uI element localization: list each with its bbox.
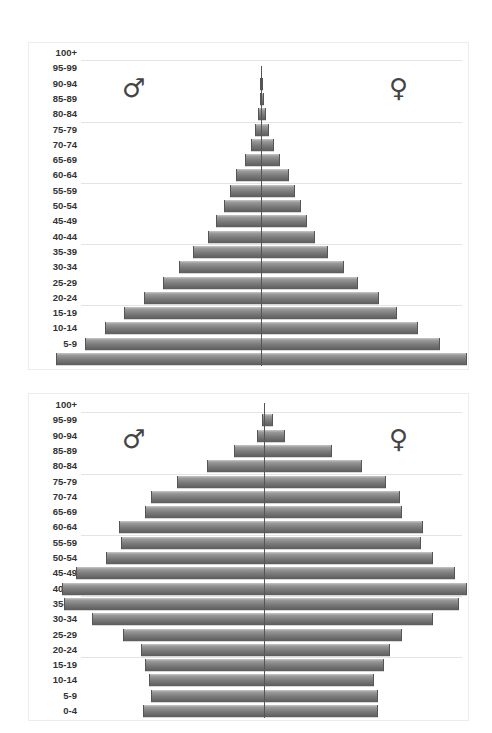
male-bar: [207, 460, 265, 472]
age-group-row: 40-44: [29, 229, 468, 244]
female-bar: [261, 338, 440, 350]
age-group-label: 50-54: [29, 198, 77, 213]
female-bar: [264, 476, 386, 488]
age-group-label: 100+: [29, 45, 77, 60]
age-group-row: 35-39: [29, 244, 468, 259]
age-group-label: 80-84: [29, 458, 77, 473]
male-bar: [124, 307, 262, 319]
male-bar: [245, 154, 262, 166]
female-bar: [261, 322, 418, 334]
female-bar: [261, 231, 315, 243]
pyramid-chart-2: ♂ ♀ 100+95-9990-9485-8980-8475-7970-7465…: [28, 393, 469, 721]
age-group-row: 50-54: [29, 198, 468, 213]
age-group-label: 90-94: [29, 428, 77, 443]
age-group-label: 60-64: [29, 167, 77, 182]
male-bar: [119, 521, 265, 533]
age-group-row: 80-84: [29, 106, 468, 121]
age-group-row: 15-19: [29, 305, 468, 320]
age-group-label: 60-64: [29, 519, 77, 534]
age-group-row: 55-59: [29, 535, 468, 550]
male-bar: [151, 491, 265, 503]
male-bar: [106, 552, 265, 564]
age-group-label: 40-44: [29, 229, 77, 244]
age-group-row: 40-44: [29, 581, 468, 596]
age-group-row: 65-69: [29, 152, 468, 167]
male-bar: [92, 613, 265, 625]
age-group-row: 85-89: [29, 91, 468, 106]
age-group-label: 50-54: [29, 550, 77, 565]
female-bar: [261, 124, 269, 136]
male-bar: [141, 644, 265, 656]
age-group-label: 75-79: [29, 474, 77, 489]
age-group-row: 70-74: [29, 137, 468, 152]
age-group-label: 85-89: [29, 443, 77, 458]
female-bar: [264, 644, 390, 656]
female-bar: [264, 705, 378, 717]
female-bar: [264, 674, 374, 686]
female-bar: [264, 598, 459, 610]
age-group-row: 95-99: [29, 412, 468, 427]
female-bar: [264, 629, 402, 641]
age-group-row: 25-29: [29, 275, 468, 290]
male-bar: [62, 583, 265, 595]
age-group-row: 20-24: [29, 642, 468, 657]
age-group-label: 0-4: [29, 703, 77, 718]
female-bar: [264, 659, 384, 671]
pyramid-chart-1: ♂ ♀ 100+95-9990-9485-8980-8475-7970-7465…: [28, 42, 469, 370]
female-bar: [264, 491, 400, 503]
age-group-label: 20-24: [29, 290, 77, 305]
male-bar: [76, 567, 265, 579]
age-group-row: 70-74: [29, 489, 468, 504]
female-bar: [261, 353, 467, 365]
male-bar: [234, 445, 265, 457]
age-group-label: 80-84: [29, 106, 77, 121]
male-bar: [144, 292, 262, 304]
male-bar: [193, 246, 262, 258]
age-group-label: 45-49: [29, 565, 77, 580]
age-group-row: 80-84: [29, 458, 468, 473]
age-group-row: 15-19: [29, 657, 468, 672]
age-group-row: 100+: [29, 397, 468, 412]
female-bar: [264, 445, 332, 457]
age-group-label: 95-99: [29, 60, 77, 75]
age-group-label: 65-69: [29, 152, 77, 167]
age-group-row: 30-34: [29, 259, 468, 274]
female-bar: [261, 215, 307, 227]
age-group-row: 90-94: [29, 428, 468, 443]
age-group-row: 60-64: [29, 519, 468, 534]
female-bar: [261, 139, 274, 151]
age-group-label: 100+: [29, 397, 77, 412]
male-bar: [56, 353, 262, 365]
age-group-label: 25-29: [29, 275, 77, 290]
female-bar: [261, 292, 379, 304]
age-group-row: 10-14: [29, 320, 468, 335]
age-group-label: 90-94: [29, 76, 77, 91]
age-group-label: 5-9: [29, 688, 77, 703]
center-axis: [261, 66, 262, 366]
age-group-label: 30-34: [29, 259, 77, 274]
age-group-row: 20-24: [29, 290, 468, 305]
female-bar: [264, 414, 273, 426]
age-group-row: 100+: [29, 45, 468, 60]
female-bar: [261, 261, 344, 273]
age-group-label: 10-14: [29, 320, 77, 335]
age-group-row: 50-54: [29, 550, 468, 565]
female-bar: [264, 690, 378, 702]
age-group-label: 45-49: [29, 213, 77, 228]
age-group-row: 35-39: [29, 596, 468, 611]
age-group-row: 95-99: [29, 60, 468, 75]
male-bar: [145, 659, 265, 671]
age-group-row: 25-29: [29, 627, 468, 642]
male-bar: [151, 690, 265, 702]
age-group-label: 85-89: [29, 91, 77, 106]
male-bar: [179, 261, 262, 273]
female-bar: [261, 246, 328, 258]
female-bar: [264, 506, 402, 518]
male-bar: [143, 705, 265, 717]
male-bar: [149, 674, 265, 686]
female-bar: [264, 552, 433, 564]
age-group-label: 15-19: [29, 657, 77, 672]
male-bar: [216, 215, 262, 227]
age-group-label: 10-14: [29, 672, 77, 687]
age-group-row: 5-9: [29, 336, 468, 351]
